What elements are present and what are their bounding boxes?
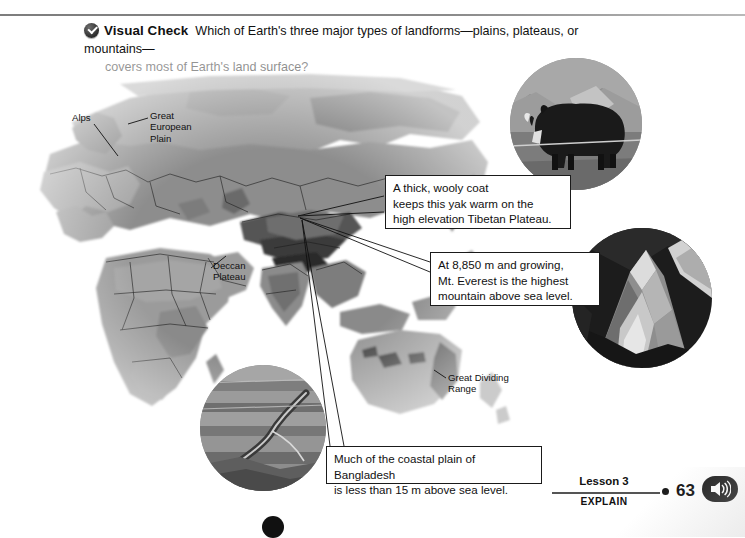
callout-bangladesh-line2: is less than 15 m above sea level. [334,482,534,498]
yak-photo [510,58,642,190]
bangladesh-photo [200,365,326,491]
page-corner-shading [595,467,745,537]
callout-yak-line3: high elevation Tibetan Plateau. [393,211,563,227]
callout-yak-line1: A thick, wooly coat [393,180,563,196]
callout-everest: At 8,850 m and growing, Mt. Everest is t… [430,252,600,306]
page-top-rule [0,14,745,16]
callout-everest-line3: mountain above sea level. [438,288,592,304]
callout-bangladesh-line1: Much of the coastal plain of Bangladesh [334,451,534,482]
callout-bangladesh: Much of the coastal plain of Bangladesh … [326,446,542,484]
bangladesh-photo-graphic [200,365,326,491]
page-bottom-dot [262,516,284,538]
check-badge-icon [84,23,99,38]
callout-yak-line2: keeps this yak warm on the [393,196,563,212]
callout-yak: A thick, wooly coat keeps this yak warm … [385,175,571,229]
callout-everest-line1: At 8,850 m and growing, [438,257,592,273]
visual-check-label: Visual Check [104,23,188,38]
yak-photo-graphic [510,58,642,190]
callout-everest-line2: Mt. Everest is the highest [438,273,592,289]
